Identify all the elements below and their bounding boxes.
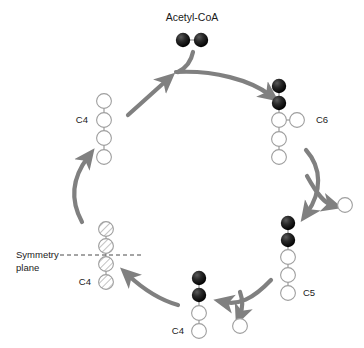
carbon-atom-labeled	[272, 96, 286, 110]
carbon-atom-hatched	[99, 275, 114, 290]
arrow-c4-to-top	[128, 80, 167, 115]
label-c5: C5	[303, 287, 315, 298]
molecule-c4-succinyl	[192, 271, 207, 339]
carbon-atom-open	[281, 268, 296, 283]
carbon-atom-open	[281, 286, 296, 301]
co2-atom-upper-right	[338, 198, 353, 213]
label-c4-top-left: C4	[76, 114, 88, 125]
carbon-atom-open	[290, 113, 305, 128]
carbon-atom-open	[272, 150, 287, 165]
arrow-co2-release-lower	[240, 292, 242, 315]
arrow-acetyl-coa-input	[178, 52, 193, 72]
carbon-atom-open	[272, 132, 287, 147]
carbon-atom-open	[97, 131, 112, 146]
molecule-acetyl-coa	[176, 33, 208, 47]
carbon-atom-labeled	[192, 271, 206, 285]
carbon-atom-labeled	[194, 33, 208, 47]
molecule-c6-citrate	[272, 79, 305, 165]
carbon-atom-open	[272, 113, 287, 128]
carbon-atom-open	[281, 250, 296, 265]
krebs-cycle-diagram: Acetyl-CoA C4 C6	[0, 0, 364, 348]
arrow-c5-to-c4	[224, 280, 271, 303]
carbon-atom-open	[192, 324, 207, 339]
arrow-c4-to-symmetry-c4	[128, 275, 178, 305]
symmetry-plane-label-line2: plane	[16, 262, 39, 273]
carbon-atom-labeled	[281, 216, 295, 230]
label-c4-bottom: C4	[172, 325, 184, 336]
label-c6: C6	[316, 114, 328, 125]
symmetry-plane-label-line1: Symmetry	[16, 249, 59, 260]
label-c4-symmetry: C4	[79, 276, 91, 287]
carbon-atom-labeled	[272, 79, 286, 93]
carbon-atom-labeled	[192, 288, 206, 302]
carbon-atom-open	[97, 113, 112, 128]
molecule-c5-alpha-ketoglutarate	[281, 216, 296, 301]
co2-atom-lower	[233, 319, 248, 334]
cycle-canvas: Acetyl-CoA C4 C6	[0, 0, 364, 348]
arrow-top-to-c6	[176, 72, 270, 95]
carbon-atom-labeled	[281, 233, 295, 247]
carbon-atom-hatched	[99, 239, 114, 254]
carbon-atom-hatched	[99, 257, 114, 272]
carbon-atom-labeled	[176, 33, 190, 47]
label-acetyl-coa: Acetyl-CoA	[166, 11, 219, 23]
arrow-symmetry-c4-to-c4	[74, 157, 88, 222]
carbon-atom-open	[97, 94, 112, 109]
carbon-atom-hatched	[99, 222, 114, 237]
carbon-atom-open	[97, 150, 112, 165]
carbon-atom-open	[192, 306, 207, 321]
molecule-c4-oxaloacetate	[97, 94, 112, 165]
